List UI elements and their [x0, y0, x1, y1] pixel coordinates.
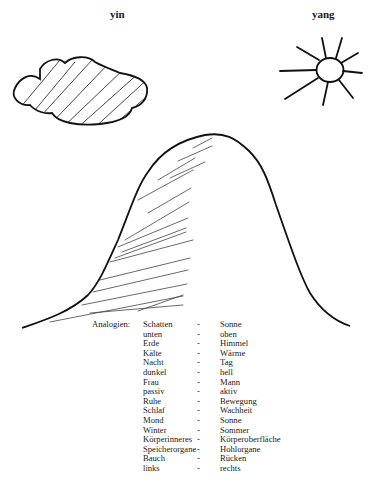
analogy-row: Bauch-Rücken	[143, 454, 380, 464]
bell-curve-mountain	[22, 134, 350, 328]
analogy-row: Frau-Mann	[143, 378, 380, 388]
separator: -	[197, 464, 200, 474]
analogy-row: links-rechts	[143, 464, 380, 474]
analogy-row: Schatten-Sonne	[143, 320, 380, 330]
analogy-row: passiv-aktiv	[143, 387, 380, 397]
yin-term: links	[143, 464, 160, 474]
analogy-row: Mond-Sonne	[143, 416, 380, 426]
analogy-row: Nacht-Tag	[143, 358, 380, 368]
analogy-row: Speicherorgane-Hohlorgane	[143, 445, 380, 455]
sun-icon	[280, 38, 362, 105]
analogy-row: Ruhe-Bewegung	[143, 397, 380, 407]
yang-term: rechts	[220, 464, 241, 474]
analogies-heading: Analogien:	[92, 320, 130, 330]
analogy-row: Schlaf-Wachheit	[143, 406, 380, 416]
analogy-row: dunkel-hell	[143, 368, 380, 378]
analogies-rows: Schatten-Sonne unten-oben Erde-Himmel Kä…	[143, 320, 380, 474]
analogy-row: Kälte-Wärme	[143, 349, 380, 359]
analogy-row: unten-oben	[143, 330, 380, 340]
cloud-icon	[10, 57, 152, 130]
analogy-row: Erde-Himmel	[143, 339, 380, 349]
